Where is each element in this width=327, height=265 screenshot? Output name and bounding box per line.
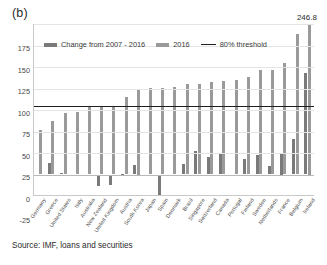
bar[interactable]	[100, 107, 103, 175]
bar[interactable]	[186, 84, 189, 174]
value-annotation-ireland: 246.8	[297, 13, 317, 22]
bar[interactable]	[210, 82, 213, 175]
y-axis-tick-label: 25	[4, 173, 30, 182]
bar[interactable]	[112, 107, 115, 175]
gridline	[34, 132, 314, 133]
panel-label: (b)	[12, 6, 28, 20]
y-axis: -250255075100125150175	[0, 24, 30, 196]
threshold-line	[34, 106, 314, 107]
bar[interactable]	[51, 121, 54, 174]
bar[interactable]	[247, 77, 250, 174]
legend-item-change: Change from 2007 - 2016	[44, 40, 145, 49]
y-axis-tick-label: 50	[4, 151, 30, 160]
gridline	[34, 24, 314, 25]
legend-swatch-threshold	[201, 44, 216, 45]
bar[interactable]	[76, 112, 79, 175]
gridline	[34, 67, 314, 68]
bar[interactable]	[198, 84, 201, 174]
zero-baseline	[34, 175, 314, 176]
legend-label-threshold: 80% threshold	[220, 40, 267, 49]
legend-swatch-change	[44, 43, 57, 47]
bar[interactable]	[109, 175, 112, 185]
bar[interactable]	[88, 107, 91, 175]
y-axis-tick-label: 175	[4, 44, 30, 53]
y-axis-tick-label: 125	[4, 87, 30, 96]
y-axis-tick-label: 75	[4, 130, 30, 139]
bar[interactable]	[125, 97, 128, 174]
legend-label-change: Change from 2007 - 2016	[61, 40, 145, 49]
y-axis-tick-label: 150	[4, 65, 30, 74]
y-axis-tick-label: 100	[4, 108, 30, 117]
chart-legend: Change from 2007 - 2016 2016 80% thresho…	[44, 40, 267, 49]
plot-area	[33, 24, 314, 196]
y-axis-tick-label: 0	[4, 194, 30, 203]
legend-item-2016: 2016	[156, 40, 189, 49]
bar[interactable]	[64, 113, 67, 174]
bar[interactable]	[271, 70, 274, 174]
source-note: Source: IMF, loans and securities	[12, 241, 133, 250]
bar[interactable]	[235, 80, 238, 175]
y-axis-tick-label: -25	[4, 216, 30, 225]
gridline	[34, 89, 314, 90]
x-axis-label: Japan	[144, 197, 157, 213]
legend-item-threshold: 80% threshold	[201, 40, 267, 49]
x-axis-label: Germany	[29, 197, 47, 219]
bar[interactable]	[259, 70, 262, 174]
bar[interactable]	[97, 175, 100, 186]
x-axis-label: Italy	[73, 197, 84, 209]
bar[interactable]	[222, 81, 225, 175]
gridline	[34, 110, 314, 111]
legend-label-2016: 2016	[173, 40, 189, 49]
x-axis-labels: GermanyGreeceUnited StatesItalyAustralia…	[33, 197, 314, 239]
bar[interactable]	[308, 24, 311, 175]
gridline	[34, 153, 314, 154]
figure-panel-b: (b) -250255075100125150175 Change from 2…	[0, 0, 327, 265]
bar[interactable]	[158, 175, 161, 196]
bar[interactable]	[283, 63, 286, 175]
legend-swatch-2016	[156, 43, 169, 47]
